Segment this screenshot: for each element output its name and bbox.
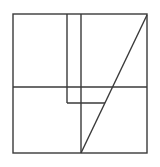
diagonal-line [81,15,147,153]
geometric-figure [0,0,160,167]
figure-canvas [0,0,160,167]
outer-square [13,14,147,153]
